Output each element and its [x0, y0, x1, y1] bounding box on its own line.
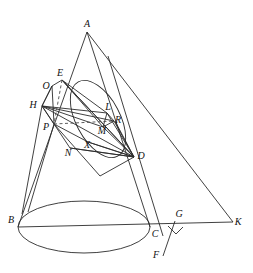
vertex-label-m: M [98, 126, 106, 136]
cone-axis-to-K [87, 32, 233, 222]
chord-segment-group [18, 32, 233, 256]
vertex-label-g: G [175, 209, 182, 219]
chord-EL [62, 80, 107, 113]
vertex-label-n: N [65, 148, 72, 158]
vertex-label-f: F [153, 250, 159, 260]
base-diameter-BK [18, 222, 233, 227]
cutting-plane-edge-OE [52, 80, 62, 86]
right-angle-at-G [168, 226, 183, 234]
perpendicular-GF [163, 221, 175, 256]
vertex-label-b: B [8, 215, 14, 225]
vertex-label-h: H [29, 100, 36, 110]
vertex-label-o: O [42, 81, 49, 91]
cone-base-ellipse [18, 201, 150, 253]
vertex-label-k: K [235, 217, 242, 227]
section-quad-PN [54, 124, 70, 148]
vertex-label-x: X [84, 140, 90, 150]
dashed-axis-EP [54, 80, 62, 124]
vertex-label-l: L [105, 102, 111, 112]
generator-through-D-to-base [108, 56, 163, 236]
cone-edge-left [18, 32, 87, 227]
right-angle-marker-group [168, 226, 183, 234]
geometry-figure: ABCDEFGHKLMNOPRX [0, 0, 253, 273]
vertex-label-d: D [137, 151, 144, 161]
figure-canvas [0, 0, 253, 273]
vertex-label-e: E [57, 68, 63, 78]
dashed-chord-PR [54, 121, 114, 124]
vertex-label-a: A [84, 19, 90, 29]
vertex-label-r: R [115, 115, 121, 125]
vertex-label-p: P [43, 122, 49, 132]
vertex-label-c: C [152, 229, 159, 239]
